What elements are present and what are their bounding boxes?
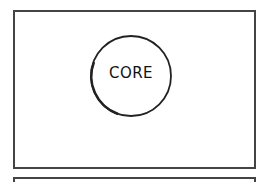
core-label: CORE bbox=[91, 64, 171, 82]
core-circle bbox=[0, 0, 266, 182]
